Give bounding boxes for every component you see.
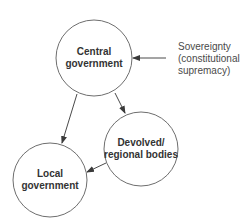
local-government-label-line2: government [21, 180, 79, 191]
devolved-regional-bodies-label-line2: regional bodies [104, 149, 178, 160]
sovereignty-label-line2: (constitutional [178, 53, 240, 64]
sovereignty-label-line3: supremacy) [178, 65, 230, 76]
arrow-central-to-devolved [115, 93, 125, 113]
sovereignty-label-line1: Sovereignty [178, 41, 231, 52]
local-government-label-line1: Local [37, 168, 63, 179]
node-local-government: Local government [13, 143, 87, 217]
central-government-label-line2: government [65, 58, 123, 69]
node-central-government: Central government [56, 20, 132, 96]
arrow-central-to-local [62, 94, 77, 143]
devolved-regional-bodies-label-line1: Devolved/ [117, 137, 164, 148]
arrow-devolved-to-local [87, 163, 106, 172]
sovereignty-annotation: Sovereignty (constitutional supremacy) [178, 41, 240, 76]
central-government-label-line1: Central [77, 46, 112, 57]
government-hierarchy-diagram: Central government Devolved/ regional bo… [0, 0, 250, 221]
node-devolved-regional-bodies: Devolved/ regional bodies [104, 112, 178, 186]
